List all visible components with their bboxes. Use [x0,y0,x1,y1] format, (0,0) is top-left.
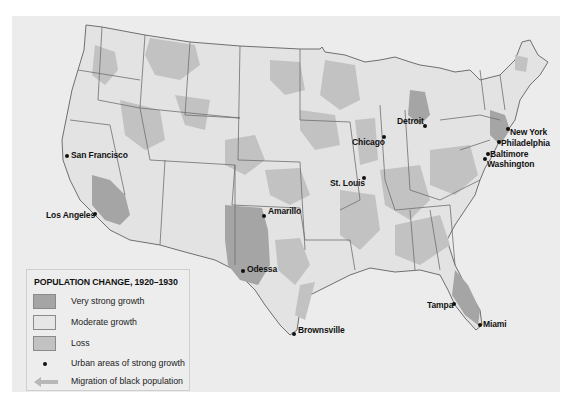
city-label: Amarillo [268,206,301,216]
city-label: Baltimore [490,149,528,159]
city-label: New York [510,127,547,137]
urban-dot-icon [43,362,47,366]
city-label: Brownsville [298,325,345,335]
city-label: Chicago [352,137,385,147]
legend-label: Urban areas of strong growth [71,358,185,368]
city-label: Washington [487,159,534,169]
moderate-growth-swatch [33,315,56,330]
city-dot [478,323,482,327]
city-dot [65,154,69,158]
city-label: Odessa [247,264,277,274]
legend-label: Very strong growth [71,296,144,306]
city-dot [262,214,266,218]
legend-item-urban-areas: Urban areas of strong growth [33,356,189,372]
legend-label: Loss [71,338,90,348]
city-label: Philadelphia [501,138,550,148]
legend-title: POPULATION CHANGE, 1920–1930 [34,277,178,287]
legend-label: Migration of black population [71,376,183,386]
legend-item-migration: Migration of black population [33,374,189,390]
city-label: St. Louis [330,178,365,188]
loss-swatch [33,336,56,351]
map-legend: POPULATION CHANGE, 1920–1930 Very strong… [26,269,190,391]
very-strong-growth-swatch [33,294,56,309]
city-dot [292,332,296,336]
city-label: Los Angeles [46,210,95,220]
legend-item-moderate-growth: Moderate growth [33,315,189,331]
migration-arrow-icon [33,376,59,388]
city-label: Detroit [397,116,424,126]
city-label: San Francisco [71,150,128,160]
city-label: Miami [483,319,507,329]
city-dot [241,269,245,273]
city-label: Tampa [427,300,453,310]
legend-label: Moderate growth [71,317,137,327]
legend-item-very-strong-growth: Very strong growth [33,294,189,310]
legend-item-loss: Loss [33,336,189,352]
